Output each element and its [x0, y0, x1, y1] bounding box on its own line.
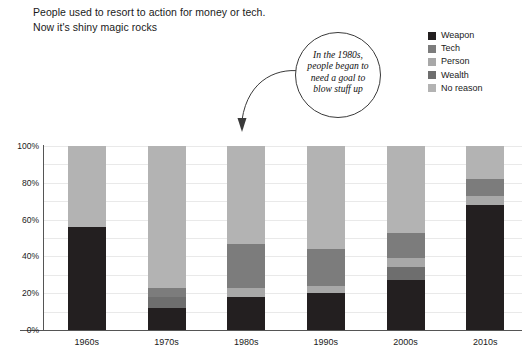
bar-segment-no-reason[interactable]	[466, 146, 504, 179]
bar-1990s[interactable]	[307, 146, 345, 330]
legend-swatch-icon	[428, 32, 436, 40]
chart-plot-area	[44, 146, 522, 330]
gridline	[44, 256, 522, 257]
y-tick-label: 60%	[0, 215, 39, 225]
bar-segment-no-reason[interactable]	[227, 146, 265, 244]
legend-label: No reason	[441, 84, 483, 93]
bar-segment-no-reason[interactable]	[148, 146, 186, 288]
gridline	[44, 238, 522, 239]
y-tick-label: 0%	[0, 325, 39, 335]
gridline	[44, 312, 522, 313]
legend-swatch-icon	[428, 71, 436, 79]
bar-1980s[interactable]	[227, 146, 265, 330]
y-tick-label: 80%	[0, 178, 39, 188]
legend-label: Person	[441, 57, 470, 66]
bar-segment-wealth[interactable]	[148, 297, 186, 308]
bar-segment-weapon[interactable]	[387, 280, 425, 330]
bar-2000s[interactable]	[387, 146, 425, 330]
x-tick-label: 1960s	[49, 337, 125, 347]
legend-item-wealth[interactable]: Wealth	[428, 69, 528, 82]
bar-segment-no-reason[interactable]	[68, 146, 106, 227]
legend-swatch-icon	[428, 45, 436, 53]
bar-segment-weapon[interactable]	[307, 293, 345, 330]
headline-line-1: People used to resort to action for mone…	[33, 5, 413, 20]
gridline	[44, 201, 522, 202]
page-title: People used to resort to action for mone…	[33, 5, 413, 35]
bar-segment-weapon[interactable]	[68, 227, 106, 330]
y-tick-label: 20%	[0, 288, 39, 298]
chart-legend: Weapon Tech Person Wealth No reason	[428, 29, 528, 95]
bar-2010s[interactable]	[466, 146, 504, 330]
legend-label: Weapon	[441, 31, 474, 40]
legend-item-tech[interactable]: Tech	[428, 42, 528, 55]
bar-segment-no-reason[interactable]	[387, 146, 425, 232]
x-tick-label: 1970s	[129, 337, 205, 347]
gridline	[44, 146, 522, 147]
gridline	[44, 183, 522, 184]
callout-text: In the 1980s, people began to need a goa…	[304, 49, 372, 95]
gridline	[44, 275, 522, 276]
y-tick-label: 40%	[0, 251, 39, 261]
legend-item-no-reason[interactable]: No reason	[428, 82, 528, 95]
gridline	[44, 293, 522, 294]
y-axis-ticks: 100% 80% 60% 40% 20% 0%	[0, 146, 39, 330]
x-tick-label: 2010s	[447, 337, 523, 347]
bar-segment-weapon[interactable]	[227, 297, 265, 330]
bar-segment-person[interactable]	[466, 196, 504, 205]
bar-segment-weapon[interactable]	[466, 205, 504, 330]
bar-segment-tech[interactable]	[227, 244, 265, 288]
legend-swatch-icon	[428, 58, 436, 66]
x-axis-line	[20, 330, 522, 331]
bar-segment-tech[interactable]	[387, 233, 425, 259]
bar-segment-person[interactable]	[227, 288, 265, 297]
bar-1970s[interactable]	[148, 146, 186, 330]
bar-segment-tech[interactable]	[466, 179, 504, 196]
bar-segment-weapon[interactable]	[148, 308, 186, 330]
bar-segment-tech[interactable]	[148, 288, 186, 297]
legend-item-weapon[interactable]: Weapon	[428, 29, 528, 42]
x-tick-label: 1980s	[208, 337, 284, 347]
x-tick-label: 1990s	[288, 337, 364, 347]
gridline	[44, 220, 522, 221]
legend-label: Wealth	[441, 71, 469, 80]
legend-label: Tech	[441, 44, 460, 53]
bar-segment-person[interactable]	[307, 286, 345, 293]
bar-segment-tech[interactable]	[307, 249, 345, 286]
legend-swatch-icon	[428, 84, 436, 92]
y-tick-label: 100%	[0, 141, 39, 151]
gridline	[44, 164, 522, 165]
bar-1960s[interactable]	[68, 146, 106, 330]
legend-item-person[interactable]: Person	[428, 55, 528, 68]
bar-segment-wealth[interactable]	[387, 267, 425, 280]
annotation-callout: In the 1980s, people began to need a goa…	[295, 32, 381, 118]
x-tick-label: 2000s	[368, 337, 444, 347]
bar-segment-no-reason[interactable]	[307, 146, 345, 249]
bar-segment-person[interactable]	[387, 258, 425, 267]
